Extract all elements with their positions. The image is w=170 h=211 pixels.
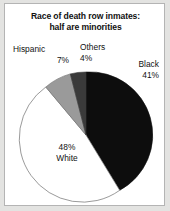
slice-label-hispanic-value: 7% [13,55,69,66]
slice-label-hispanic: Hispanic 7% [13,44,69,65]
slice-label-black-name: Black [139,59,159,69]
slice-label-black: Black 41% [109,59,159,80]
pie-chart [5,4,165,206]
slice-label-white: 48% White [41,142,93,163]
slice-label-white-value: 48% [41,142,93,153]
slice-label-black-value: 41% [109,70,159,81]
chart-frame: Race of death row inmates: half are mino… [4,3,165,206]
slice-label-white-name: White [41,153,93,164]
slice-label-hispanic-name: Hispanic [13,44,45,54]
slice-label-others-name: Others [80,42,105,52]
